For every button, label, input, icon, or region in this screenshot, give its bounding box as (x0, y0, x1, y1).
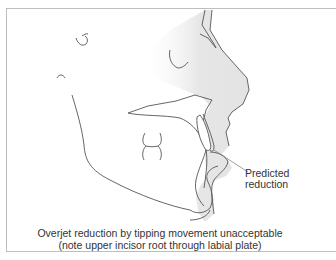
molar-symbol (143, 133, 162, 160)
caption-line-1: Overjet reduction by tipping movement un… (0, 228, 320, 240)
predicted-reduction-label: Predicted reduction (245, 168, 289, 190)
caption-line-2: (note upper incisor root through labial … (0, 240, 320, 252)
palate-line (128, 113, 202, 140)
condyle-mark (57, 75, 65, 78)
annotation-line-2: reduction (245, 179, 289, 190)
ear-symbol (76, 34, 88, 45)
figure-caption: Overjet reduction by tipping movement un… (0, 228, 320, 251)
